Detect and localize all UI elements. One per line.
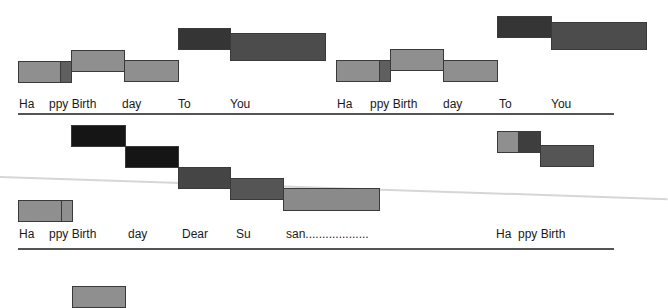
lyric: day — [122, 97, 141, 111]
note-birth — [71, 50, 125, 72]
lyric: You — [551, 97, 571, 111]
row-2-baseline-rule — [18, 248, 614, 250]
lyric: Ha — [19, 227, 34, 241]
note-day — [125, 146, 179, 168]
note-ppy-2 — [518, 131, 541, 153]
lyric: day — [443, 97, 462, 111]
note-dear — [178, 167, 231, 189]
note-day — [124, 60, 179, 82]
note-ha-2 — [336, 60, 380, 82]
lyric: You — [230, 97, 250, 111]
lyric: ppy Birth — [518, 227, 565, 241]
lyric: day — [128, 227, 147, 241]
note-you-2 — [551, 22, 647, 50]
note-birth — [71, 125, 126, 147]
note-birth-2 — [390, 49, 444, 71]
lyric: To — [499, 97, 512, 111]
note-su — [230, 178, 284, 200]
lyric: Ha — [337, 97, 352, 111]
lyric: san................... — [286, 227, 369, 241]
lyric: Ha — [496, 227, 511, 241]
note-ha-2 — [497, 131, 519, 153]
lyric: Ha — [19, 97, 34, 111]
note-san — [283, 188, 380, 211]
note-to — [178, 28, 231, 50]
lyric: To — [178, 97, 191, 111]
note-to-2 — [497, 16, 552, 38]
lyric: Su — [236, 227, 251, 241]
note-birth-2 — [540, 145, 594, 167]
note-ppy — [61, 200, 73, 222]
lyric: ppy Birth — [49, 227, 96, 241]
lyric: ppy Birth — [49, 97, 96, 111]
note-you — [230, 33, 326, 61]
note-ha — [18, 200, 62, 222]
note-day-2 — [443, 60, 498, 82]
note-partial — [72, 286, 126, 308]
lyric: ppy Birth — [370, 97, 417, 111]
note-ha — [18, 61, 61, 83]
row-1-baseline-rule — [18, 113, 614, 115]
lyric: Dear — [182, 227, 208, 241]
